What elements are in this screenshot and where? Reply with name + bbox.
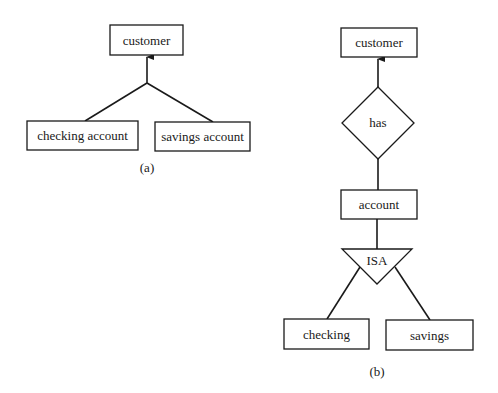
entity-savings[interactable]: savings (386, 320, 473, 350)
entity-customer-b[interactable]: customer (341, 28, 417, 57)
isa-label: ISA (367, 253, 389, 268)
edge-isa-checking (327, 267, 360, 319)
caption-b: (b) (369, 364, 384, 379)
entity-label: customer (123, 33, 171, 48)
edge-checking-account (85, 83, 147, 121)
entity-label: savings (410, 328, 449, 343)
entity-label: account (359, 197, 400, 212)
entity-label: savings account (161, 129, 244, 144)
entity-label: checking account (37, 128, 128, 143)
entity-savings-account[interactable]: savings account (155, 122, 250, 151)
relationship-label: has (369, 115, 386, 130)
edge-isa-savings (395, 267, 430, 320)
entity-account[interactable]: account (341, 190, 417, 219)
entity-label: checking (303, 327, 350, 342)
entity-label: customer (355, 35, 403, 50)
diagram-a: customer checking account savings accoun… (27, 25, 250, 175)
entity-customer-a[interactable]: customer (110, 25, 183, 55)
edge-savings-account (147, 83, 213, 122)
caption-a: (a) (140, 160, 154, 175)
entity-checking-account[interactable]: checking account (27, 121, 138, 150)
er-diagram-canvas: customer checking account savings accoun… (0, 0, 498, 393)
relationship-has[interactable]: has (342, 87, 414, 159)
diagram-b: customer has account ISA checking saving… (284, 28, 473, 379)
entity-checking[interactable]: checking (284, 319, 369, 349)
